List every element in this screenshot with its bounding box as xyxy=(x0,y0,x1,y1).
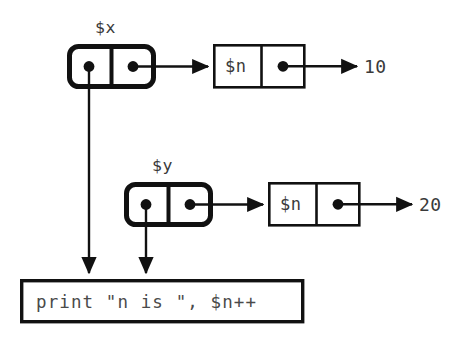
shared-code-block: print "n is ", $n++ xyxy=(22,281,303,322)
variable-label-y: $y xyxy=(152,156,173,175)
code-block-text: print "n is ", $n++ xyxy=(36,292,257,312)
scalar-value-20: 20 xyxy=(419,194,442,215)
value-cell-n-2-label: $n xyxy=(280,194,301,214)
variable-label-x: $x xyxy=(95,18,116,37)
reference-diagram: $x $n 10 $y xyxy=(0,0,471,343)
value-cell-n-1-label: $n xyxy=(225,56,246,76)
scalar-value-10: 10 xyxy=(364,56,387,77)
diagram-canvas: $x $n 10 $y xyxy=(0,0,471,343)
